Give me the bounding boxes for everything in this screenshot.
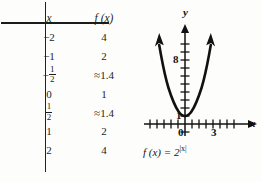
cell-fx: 1 (72, 84, 136, 103)
y-axis-name: y (183, 6, 188, 18)
fraction-denominator: 2 (46, 112, 53, 122)
negative-half-value: −12 (42, 65, 55, 84)
cell-x: −2 (26, 28, 72, 47)
cell-fx: 4 (72, 28, 136, 47)
table-row: 12 ≈1.4 (26, 103, 136, 122)
cell-fx: 4 (72, 141, 136, 160)
value-table-panel: x f (x) −2 4 −1 2 −12 (0, 0, 140, 182)
table-header-row: x f (x) (26, 8, 136, 28)
table-row: −2 4 (26, 28, 136, 47)
value-table: x f (x) −2 4 −1 2 −12 (26, 8, 136, 159)
cell-fx: ≈1.4 (72, 65, 136, 84)
cell-fx: 2 (72, 122, 136, 141)
header-cell-fx: f (x) (72, 8, 136, 28)
table-row: 0 1 (26, 84, 136, 103)
header-cell-x: x (26, 8, 72, 28)
cell-fx: 2 (72, 47, 136, 66)
fraction: 12 (46, 102, 53, 121)
cell-x-fraction: 12 (26, 103, 72, 122)
fraction-numerator: 1 (49, 65, 56, 74)
x-tick-label-3: 3 (211, 126, 217, 138)
formula-exponent: |x| (179, 144, 186, 153)
origin-label: 0 (178, 126, 184, 138)
cell-fx: ≈1.4 (72, 103, 136, 122)
table-row: 2 4 (26, 141, 136, 160)
y-axis (181, 24, 190, 136)
x-axis-name: x (250, 117, 256, 129)
cell-x: −1 (26, 47, 72, 66)
graph-panel: y x 8 1 0 3 f (x) = 2|x| (140, 0, 261, 182)
y-axis-arrowhead (181, 24, 189, 33)
fraction: 12 (49, 65, 56, 84)
x-axis (144, 120, 257, 129)
formula-lead: f (x) = 2 (143, 146, 179, 158)
y-intercept-label-1: 1 (176, 109, 182, 121)
minus-sign: − (42, 69, 48, 81)
table-row: 1 2 (26, 122, 136, 141)
fraction-numerator: 1 (46, 102, 53, 111)
table-row: −1 2 (26, 47, 136, 66)
table-row: −12 ≈1.4 (26, 65, 136, 84)
cell-x: 2 (26, 141, 72, 160)
y-tick-label-8: 8 (173, 53, 179, 65)
cell-x: 1 (26, 122, 72, 141)
fraction-denominator: 2 (49, 74, 56, 84)
cell-x-negative-fraction: −12 (26, 65, 72, 84)
math-figure: x f (x) −2 4 −1 2 −12 (0, 0, 261, 182)
function-formula: f (x) = 2|x| (143, 144, 187, 158)
cell-x: 0 (26, 84, 72, 103)
